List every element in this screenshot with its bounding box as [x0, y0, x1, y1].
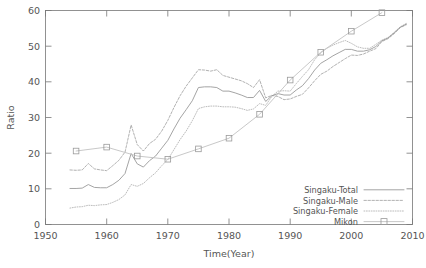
- legend-label-singaku-female: Singaku-Female: [293, 206, 358, 216]
- line-chart: 0 10 20 30 40: [0, 0, 426, 268]
- y-axis-title: Ratio: [5, 105, 16, 130]
- y-tick-label: 60: [28, 5, 40, 16]
- x-tick-label: 1970: [156, 230, 180, 241]
- legend-label-mikon: Mikon: [334, 217, 358, 227]
- y-tick-label: 0: [34, 219, 40, 230]
- legend-label-singaku-male: Singaku-Male: [303, 196, 358, 206]
- y-tick-label: 40: [28, 76, 40, 87]
- x-tick-label: 2010: [400, 230, 424, 241]
- chart-background: [0, 0, 426, 268]
- y-tick-label: 20: [28, 148, 40, 159]
- chart-container: 0 10 20 30 40: [0, 0, 426, 268]
- y-tick-label: 10: [28, 183, 40, 194]
- x-tick-label: 1950: [33, 230, 57, 241]
- x-axis-title: Time(Year): [203, 248, 255, 259]
- x-tick-label: 1990: [278, 230, 302, 241]
- y-tick-label: 50: [28, 41, 40, 52]
- x-tick-label: 1980: [217, 230, 241, 241]
- legend-label-singaku-total: Singaku-Total: [304, 185, 358, 195]
- x-tick-label: 1960: [95, 230, 119, 241]
- x-tick-label: 2000: [339, 230, 363, 241]
- y-tick-label: 30: [28, 112, 40, 123]
